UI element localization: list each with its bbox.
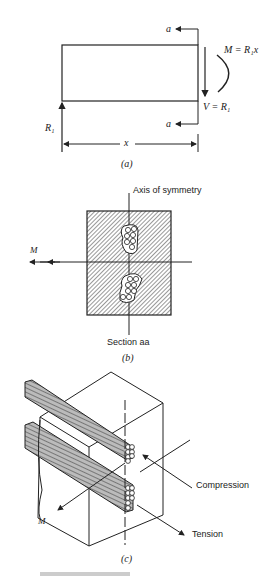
caption-fragment <box>40 572 130 576</box>
moment-label-c: M <box>38 516 46 526</box>
reaction-label: R₁ <box>45 122 55 133</box>
caption-a: (a) <box>121 158 133 169</box>
section-a-top-label: a <box>166 23 171 34</box>
section-a-bottom-label: a <box>166 118 171 129</box>
panel-b-cross-section <box>30 193 192 335</box>
tension-label: Tension <box>192 529 223 539</box>
compression-label: Compression <box>196 480 249 490</box>
moment-label: M = R₁x <box>224 44 258 55</box>
caption-c: (c) <box>121 553 132 564</box>
shear-label: V = R₁ <box>203 101 230 112</box>
panel-c-isometric <box>25 372 192 546</box>
caption-b: (b) <box>122 352 134 363</box>
panel-a-beam-diagram <box>62 29 229 152</box>
moment-arc <box>217 55 229 92</box>
moment-label-b: M <box>30 245 38 255</box>
axis-of-symmetry-label: Axis of symmetry <box>133 185 202 195</box>
section-aa-label: Section aa <box>107 337 150 347</box>
length-label: x <box>124 137 128 148</box>
beam-segment <box>62 45 198 101</box>
